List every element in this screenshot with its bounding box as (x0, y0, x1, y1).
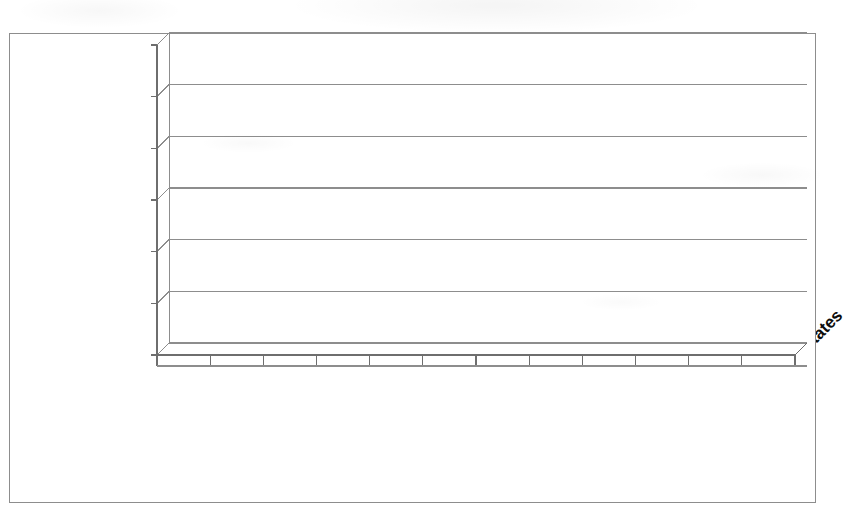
gridline-connector-600000 (157, 188, 169, 200)
gridline-connector-800000 (157, 136, 169, 148)
gridline-connector-0 (157, 343, 169, 355)
gridline-connector-200000 (157, 291, 169, 303)
gridline-connector-400000 (157, 240, 169, 252)
floor-right-edge (795, 343, 807, 355)
gridline-connector-1000000 (157, 85, 169, 97)
gridline-connector-1200000 (157, 33, 169, 45)
